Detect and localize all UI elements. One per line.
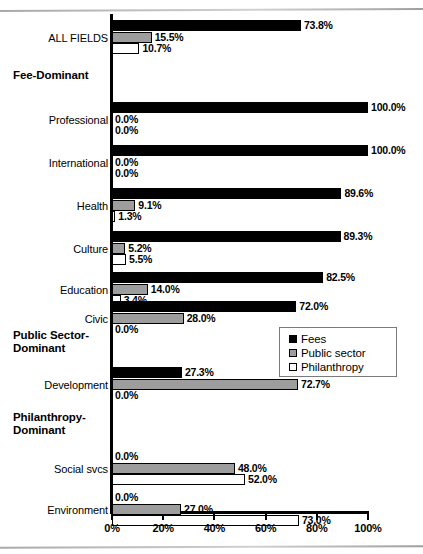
- category-label: Education: [60, 284, 108, 296]
- bar-fees: [112, 231, 341, 242]
- x-tick: [111, 514, 113, 520]
- bar-value-label: 28.0%: [187, 313, 216, 324]
- bar-fees: [112, 145, 368, 156]
- bar-value-label: 0.0%: [115, 492, 138, 503]
- bar-value-label: 89.6%: [344, 188, 373, 199]
- x-tick-label: 40%: [204, 522, 225, 534]
- x-tick-label: 80%: [306, 522, 327, 534]
- bar-value-label: 48.0%: [238, 463, 267, 474]
- legend-label-fees: Fees: [301, 333, 326, 345]
- bar-value-label: 82.5%: [326, 272, 355, 283]
- x-tick: [162, 514, 164, 520]
- bar-public: [112, 313, 184, 324]
- bar-fees: [112, 272, 323, 283]
- bar-value-label: 0.0%: [115, 114, 138, 125]
- bar-fees: [112, 102, 368, 113]
- bar-value-label: 0.0%: [115, 324, 138, 335]
- bar-value-label: 0.0%: [115, 168, 138, 179]
- bar-value-label: 27.3%: [185, 367, 214, 378]
- legend-label-public-sector: Public sector: [301, 347, 366, 359]
- bar-value-label: 73.8%: [304, 20, 333, 31]
- scan-edge-top: [0, 8, 423, 12]
- bar-fees: [112, 301, 296, 312]
- horizontal-bar-chart: ALL FIELDS73.8%15.5%10.7%Professional100…: [0, 14, 423, 514]
- category-label: Development: [44, 379, 108, 391]
- bar-value-label: 72.7%: [301, 379, 330, 390]
- group-header: Public Sector- Dominant: [13, 329, 89, 355]
- bar-value-label: 1.3%: [118, 211, 141, 222]
- bar-value-label: 100.0%: [371, 102, 405, 113]
- bar-value-label: 100.0%: [371, 145, 405, 156]
- legend-swatch-fees-icon: [289, 335, 297, 343]
- category-label: Culture: [73, 243, 108, 255]
- bar-value-label: 15.5%: [155, 32, 184, 43]
- bar-phil: [112, 254, 126, 265]
- x-tick: [367, 514, 369, 520]
- legend-swatch-public-sector-icon: [289, 349, 297, 357]
- category-label: Health: [77, 200, 108, 212]
- x-tick: [265, 514, 267, 520]
- bar-value-label: 0.0%: [115, 451, 138, 462]
- bar-value-label: 52.0%: [248, 474, 277, 485]
- x-tick-label: 100%: [354, 522, 381, 534]
- bar-value-label: 9.1%: [138, 200, 161, 211]
- bar-value-label: 27.0%: [184, 504, 213, 515]
- x-tick: [213, 514, 215, 520]
- bar-value-label: 72.0%: [299, 301, 328, 312]
- legend-item-fees: Fees: [289, 332, 396, 346]
- bar-fees: [112, 367, 182, 378]
- bar-phil: [112, 474, 245, 485]
- scan-edge-bottom: [0, 545, 423, 548]
- category-label: Professional: [49, 114, 108, 126]
- legend-item-public-sector: Public sector: [289, 346, 396, 360]
- chart-page: ALL FIELDS73.8%15.5%10.7%Professional100…: [0, 0, 423, 554]
- bar-public: [112, 284, 148, 295]
- x-tick-label: 0%: [104, 522, 120, 534]
- bar-public: [112, 379, 298, 390]
- group-header: Philanthropy- Dominant: [13, 411, 86, 437]
- category-label: Environment: [47, 504, 108, 516]
- bar-public: [112, 243, 125, 254]
- bar-public: [112, 32, 152, 43]
- bar-value-label: 5.2%: [128, 243, 151, 254]
- bar-public: [112, 200, 135, 211]
- legend-label-philanthropy: Philanthropy: [301, 361, 364, 373]
- bar-public: [112, 504, 181, 515]
- x-tick-label: 20%: [152, 522, 173, 534]
- bar-phil: [112, 211, 115, 222]
- bar-value-label: 5.5%: [129, 254, 152, 265]
- bar-value-label: 10.7%: [142, 43, 171, 54]
- x-tick-label: 60%: [255, 522, 276, 534]
- chart-legend: Fees Public sector Philanthropy: [279, 327, 397, 377]
- legend-item-philanthropy: Philanthropy: [289, 360, 396, 374]
- category-label: Civic: [85, 313, 108, 325]
- category-label: Social svcs: [54, 463, 108, 475]
- legend-swatch-philanthropy-icon: [289, 363, 297, 371]
- bar-value-label: 0.0%: [115, 390, 138, 401]
- bar-value-label: 0.0%: [115, 157, 138, 168]
- category-label: ALL FIELDS: [48, 32, 108, 44]
- bar-fees: [112, 20, 301, 31]
- bar-value-label: 89.3%: [344, 231, 373, 242]
- bar-value-label: 0.0%: [115, 125, 138, 136]
- bar-fees: [112, 188, 341, 199]
- bar-value-label: 14.0%: [151, 284, 180, 295]
- group-header: Fee-Dominant: [13, 69, 88, 82]
- category-label: International: [49, 157, 108, 169]
- x-tick: [316, 514, 318, 520]
- bar-phil: [112, 43, 139, 54]
- bar-public: [112, 463, 235, 474]
